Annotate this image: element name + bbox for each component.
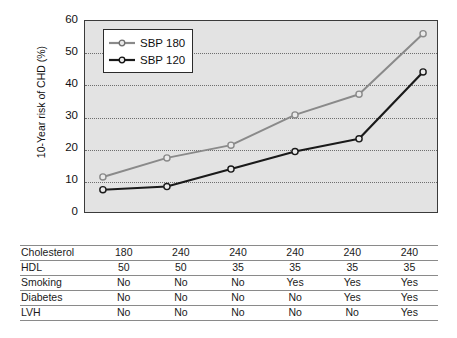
data-point: [356, 91, 362, 97]
row-label: HDL: [20, 261, 95, 276]
legend: SBP 180 SBP 120: [103, 29, 193, 73]
data-point: [420, 31, 426, 37]
table-row: HDL505035353535: [20, 261, 438, 276]
table-cell: No: [95, 306, 152, 321]
table-cell: Yes: [267, 276, 324, 291]
table-cell: No: [209, 291, 266, 306]
table-cell: 180: [95, 246, 152, 261]
table-cell: Yes: [324, 276, 381, 291]
data-point: [100, 187, 106, 193]
table-cell: No: [324, 306, 381, 321]
legend-item-sbp-180: SBP 180: [108, 34, 185, 51]
row-label: Smoking: [20, 276, 95, 291]
row-label: Cholesterol: [20, 246, 95, 261]
table-cell: No: [152, 306, 209, 321]
table-row: SmokingNoNoNoYesYesYes: [20, 276, 438, 291]
legend-label-sbp-180: SBP 180: [140, 37, 185, 49]
y-tick-0: 0: [52, 205, 78, 217]
table-cell: 240: [381, 246, 438, 261]
data-point: [164, 155, 170, 161]
table-cell: 50: [95, 261, 152, 276]
y-tick-10: 10: [52, 173, 78, 185]
table-cell: 35: [324, 261, 381, 276]
data-point: [420, 69, 426, 75]
line-chart: 10-Year risk of CHD (%) 60 50 40 30 20 1…: [0, 0, 457, 236]
data-point: [228, 166, 234, 172]
table-cell: No: [209, 276, 266, 291]
table-cell: 35: [209, 261, 266, 276]
data-point: [228, 142, 234, 148]
table-cell: 240: [209, 246, 266, 261]
legend-swatch-sbp-120: [108, 54, 136, 66]
table-row: LVHNoNoNoNoNoYes: [20, 306, 438, 321]
y-tick-30: 30: [52, 109, 78, 121]
table-cell: No: [152, 291, 209, 306]
table-cell: No: [152, 276, 209, 291]
y-tick-20: 20: [52, 141, 78, 153]
data-point: [100, 174, 106, 180]
data-point: [164, 183, 170, 189]
table-cell: Yes: [324, 291, 381, 306]
chd-risk-figure: 10-Year risk of CHD (%) 60 50 40 30 20 1…: [0, 0, 457, 338]
row-label: Diabetes: [20, 291, 95, 306]
table-row: DiabetesNoNoNoNoYesYes: [20, 291, 438, 306]
data-point: [292, 148, 298, 154]
data-point: [356, 136, 362, 142]
legend-item-sbp-120: SBP 120: [108, 51, 185, 68]
y-tick-40: 40: [52, 77, 78, 89]
row-label: LVH: [20, 306, 95, 321]
table-cell: No: [267, 291, 324, 306]
y-tick-50: 50: [52, 45, 78, 57]
risk-factor-table: Cholesterol180240240240240240HDL50503535…: [20, 245, 438, 321]
y-tick-60: 60: [52, 13, 78, 25]
legend-label-sbp-120: SBP 120: [140, 54, 185, 66]
table-cell: Yes: [381, 306, 438, 321]
table-cell: 240: [152, 246, 209, 261]
table-cell: No: [209, 306, 266, 321]
legend-swatch-sbp-180: [108, 37, 136, 49]
table-cell: 35: [381, 261, 438, 276]
table-cell: 240: [267, 246, 324, 261]
table-cell: Yes: [381, 291, 438, 306]
data-point: [292, 112, 298, 118]
table-cell: 50: [152, 261, 209, 276]
table-cell: 240: [324, 246, 381, 261]
table-cell: No: [95, 276, 152, 291]
table-row: Cholesterol180240240240240240: [20, 246, 438, 261]
table-cell: 35: [267, 261, 324, 276]
table-cell: No: [95, 291, 152, 306]
table-cell: No: [267, 306, 324, 321]
table-cell: Yes: [381, 276, 438, 291]
